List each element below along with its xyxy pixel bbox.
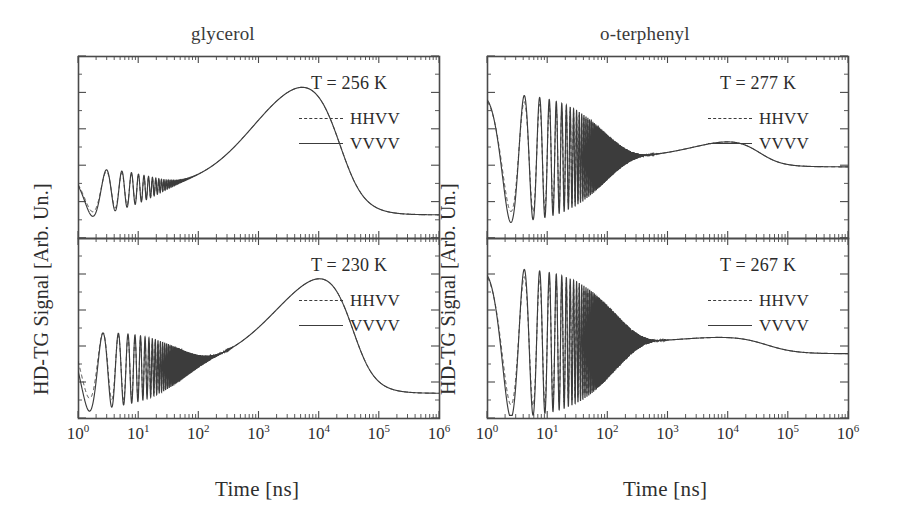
legend-entry-hhvv-glycerol-230: HHVV	[299, 291, 400, 311]
temperature-annotation-otp-267: T = 267 K	[720, 255, 796, 276]
legend-label: VVVV	[759, 316, 809, 335]
x-tick-label: 106	[428, 424, 451, 444]
dashed-line-icon	[299, 118, 343, 119]
dashed-line-icon	[299, 300, 343, 301]
legend-entry-hhvv-glycerol-256: HHVV	[299, 109, 400, 129]
legend-label: HHVV	[350, 109, 400, 128]
solid-line-icon	[708, 143, 752, 144]
legend-entry-hhvv-otp-277: HHVV	[708, 109, 809, 129]
x-tick-label: 102	[187, 424, 210, 444]
x-tick-label: 104	[716, 424, 739, 444]
legend-label: VVVV	[350, 316, 400, 335]
x-tick-label: 103	[247, 424, 270, 444]
x-tick-label: 103	[656, 424, 679, 444]
solid-line-icon	[708, 325, 752, 326]
x-tick-label: 105	[777, 424, 800, 444]
x-tick-label: 101	[536, 424, 559, 444]
legend-entry-vvvv-otp-277: VVVV	[708, 134, 809, 154]
legend-label: HHVV	[759, 109, 809, 128]
temperature-annotation-glycerol-230: T = 230 K	[311, 255, 387, 276]
legend-entry-hhvv-otp-267: HHVV	[708, 291, 809, 311]
x-tick-label: 105	[368, 424, 391, 444]
dashed-line-icon	[708, 118, 752, 119]
x-tick-label: 100	[476, 424, 499, 444]
solid-line-icon	[299, 143, 343, 144]
x-tick-label: 104	[307, 424, 330, 444]
legend-label: VVVV	[759, 134, 809, 153]
legend-entry-vvvv-otp-267: VVVV	[708, 316, 809, 336]
temperature-annotation-glycerol-256: T = 256 K	[311, 73, 387, 94]
dashed-line-icon	[708, 300, 752, 301]
x-tick-label: 100	[67, 424, 90, 444]
figure-root: glycerol o-terphenyl HD-TG Signal [Arb. …	[0, 0, 898, 525]
solid-line-icon	[299, 325, 343, 326]
legend-label: HHVV	[759, 291, 809, 310]
legend-entry-vvvv-glycerol-230: VVVV	[299, 316, 400, 336]
legend-label: HHVV	[350, 291, 400, 310]
temperature-annotation-otp-277: T = 277 K	[720, 73, 796, 94]
legend-entry-vvvv-glycerol-256: VVVV	[299, 134, 400, 154]
x-tick-label: 101	[127, 424, 150, 444]
legend-label: VVVV	[350, 134, 400, 153]
x-tick-label: 106	[837, 424, 860, 444]
x-tick-label: 102	[596, 424, 619, 444]
